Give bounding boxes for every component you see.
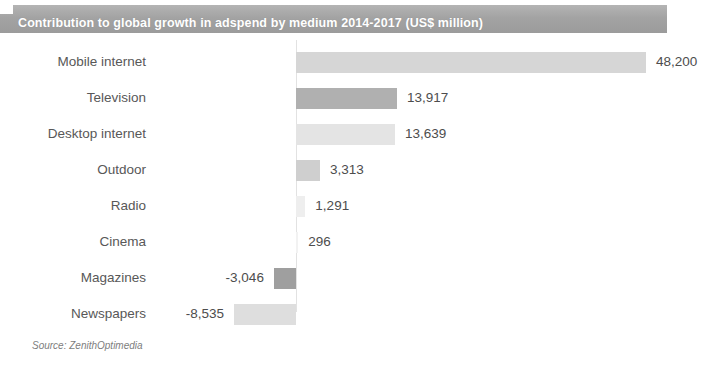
category-label: Mobile internet — [0, 44, 146, 80]
bar-row: Radio1,291 — [0, 188, 711, 224]
bar-value-label: -8,535 — [186, 296, 224, 332]
bar — [296, 124, 395, 145]
category-label: Newspapers — [0, 296, 146, 332]
bar — [234, 304, 296, 325]
bar-row: Mobile internet48,200 — [0, 44, 711, 80]
category-label: Radio — [0, 188, 146, 224]
chart-title: Contribution to global growth in adspend… — [18, 16, 658, 30]
bar — [296, 232, 298, 253]
chart-title-banner: Contribution to global growth in adspend… — [0, 5, 667, 33]
category-label: Desktop internet — [0, 116, 146, 152]
bar — [296, 196, 305, 217]
bar-value-label: 13,639 — [405, 116, 446, 152]
bar-chart-plot-area: Mobile internet48,200Television13,917Des… — [0, 40, 711, 330]
category-label: Outdoor — [0, 152, 146, 188]
source-note: Source: ZenithOptimedia — [32, 340, 143, 351]
bar-value-label: -3,046 — [226, 260, 264, 296]
bar-value-label: 3,313 — [330, 152, 364, 188]
bar-value-label: 13,917 — [407, 80, 448, 116]
bar-row: Magazines-3,046 — [0, 260, 711, 296]
bar — [296, 52, 646, 73]
bar-row: Television13,917 — [0, 80, 711, 116]
bar-row: Outdoor3,313 — [0, 152, 711, 188]
bar-value-label: 1,291 — [315, 188, 349, 224]
bar — [274, 268, 296, 289]
bar — [296, 160, 320, 181]
category-label: Cinema — [0, 224, 146, 260]
bar — [296, 88, 397, 109]
category-label: Television — [0, 80, 146, 116]
bar-row: Newspapers-8,535 — [0, 296, 711, 332]
bar-row: Desktop internet13,639 — [0, 116, 711, 152]
category-label: Magazines — [0, 260, 146, 296]
bar-value-label: 296 — [308, 224, 331, 260]
bar-row: Cinema296 — [0, 224, 711, 260]
bar-value-label: 48,200 — [656, 44, 697, 80]
